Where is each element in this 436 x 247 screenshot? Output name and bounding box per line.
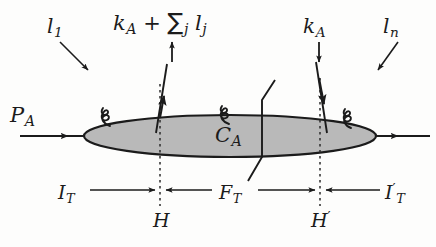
label-kA: kA xyxy=(303,16,325,39)
label-top-momentum: kA + ∑j lj xyxy=(113,11,207,36)
ln-pointer-arrow xyxy=(378,42,398,70)
label-FT: FT xyxy=(219,183,241,206)
label-IT: IT xyxy=(58,183,75,206)
label-H-prime: H′ xyxy=(311,210,331,230)
label-PA: PA xyxy=(10,105,35,128)
label-IT-prime: I′T xyxy=(385,182,405,206)
label-l1: l1 xyxy=(47,16,63,39)
l1-pointer-arrow xyxy=(60,42,88,70)
label-H: H xyxy=(153,211,170,230)
feynman-diagram-figure: l1 kA + ∑j lj kA ln PA CA IT FT I′T H H′ xyxy=(0,0,436,247)
label-ln: ln xyxy=(383,16,399,39)
label-CA: CA xyxy=(215,125,242,148)
